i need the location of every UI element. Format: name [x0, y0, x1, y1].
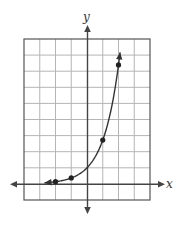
y-axis-label: y — [82, 10, 90, 24]
x-axis-left-arrow-icon — [10, 181, 17, 188]
data-point — [69, 175, 74, 180]
x-axis-right-arrow-icon — [158, 181, 165, 188]
x-axis-label: x — [166, 177, 173, 191]
data-point — [116, 62, 121, 67]
data-point — [100, 138, 105, 143]
graph: y x — [0, 0, 181, 227]
y-axis-up-arrow-icon — [84, 25, 91, 32]
data-point — [53, 179, 58, 184]
y-axis-down-arrow-icon — [84, 207, 91, 214]
curve-arrows — [44, 52, 122, 185]
curve-up-arrow-icon — [116, 52, 122, 59]
